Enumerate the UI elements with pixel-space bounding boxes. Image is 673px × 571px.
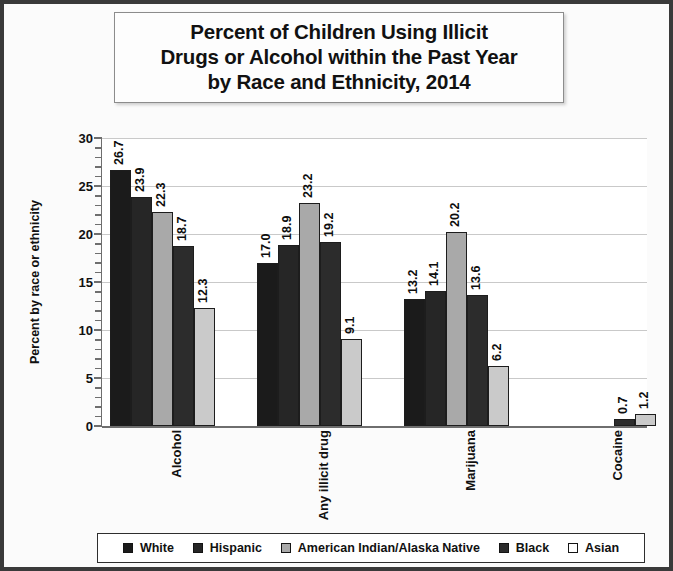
y-axis-tick-label: 0 (53, 419, 93, 434)
legend-label: Black (516, 541, 549, 555)
y-axis-title: Percent by race or ethnicity (24, 138, 46, 426)
legend-swatch (281, 543, 291, 553)
bar-value-label: 20.2 (448, 203, 462, 227)
bar[interactable] (152, 212, 173, 426)
bar[interactable] (299, 203, 320, 426)
bar-slot: 18.7 (173, 138, 194, 426)
bar[interactable] (488, 366, 509, 426)
y-axis-tick-label: 15 (53, 275, 93, 290)
bar[interactable] (614, 419, 635, 426)
bar-value-label: 23.9 (133, 167, 147, 191)
x-axis-tick-label: Alcohol (169, 430, 184, 478)
legend-item[interactable]: Hispanic (193, 541, 262, 555)
x-axis-tick-labels: AlcoholAny illicit drugMarijuanaCocaine (101, 430, 647, 530)
legend-item[interactable]: American Indian/Alaska Native (281, 541, 480, 555)
y-axis-tick-label: 25 (53, 179, 93, 194)
legend-item[interactable]: White (123, 541, 174, 555)
bar-value-label: 26.7 (112, 140, 126, 164)
bar-group: 17.018.923.219.29.1 (257, 138, 362, 426)
bar-value-label: 0.7 (616, 397, 630, 414)
bar-slot (551, 138, 572, 426)
legend-label: Hispanic (210, 541, 262, 555)
bar-slot: 6.2 (488, 138, 509, 426)
bar-value-label: 17.0 (259, 233, 273, 257)
bar-value-label: 19.2 (322, 212, 336, 236)
bar-value-label: 13.2 (406, 270, 420, 294)
bar-group: 13.214.120.213.66.2 (404, 138, 509, 426)
legend-label: Asian (585, 541, 619, 555)
bar[interactable] (110, 170, 131, 426)
bar-slot (572, 138, 593, 426)
bar-slot: 22.3 (152, 138, 173, 426)
chart-legend: WhiteHispanicAmerican Indian/Alaska Nati… (97, 533, 645, 563)
bar[interactable] (341, 339, 362, 426)
bar-slot: 18.9 (278, 138, 299, 426)
y-axis-title-text: Percent by race or ethnicity (28, 200, 42, 364)
bar[interactable] (320, 242, 341, 426)
bar-slot: 13.6 (467, 138, 488, 426)
bar-slot (593, 138, 614, 426)
bar[interactable] (635, 414, 656, 426)
bar-slot: 23.9 (131, 138, 152, 426)
bar-value-label: 12.3 (196, 279, 210, 303)
legend-item[interactable]: Black (499, 541, 549, 555)
bar[interactable] (404, 299, 425, 426)
chart-title: Percent of Children Using Illicit Drugs … (114, 12, 564, 103)
bar[interactable] (173, 246, 194, 426)
legend-item[interactable]: Asian (568, 541, 619, 555)
bar-group: 0.71.2 (551, 138, 656, 426)
bar-slot: 9.1 (341, 138, 362, 426)
y-axis-tick-label: 30 (53, 131, 93, 146)
gridline (102, 426, 647, 428)
y-axis-tick-label: 10 (53, 323, 93, 338)
bar-slot: 0.7 (614, 138, 635, 426)
x-axis-tick-label: Cocaine (610, 430, 625, 481)
chart-title-line-3: by Race and Ethnicity, 2014 (123, 69, 555, 94)
bar-slot: 19.2 (320, 138, 341, 426)
legend-swatch (193, 543, 203, 553)
bar-slot: 12.3 (194, 138, 215, 426)
bar-slot: 23.2 (299, 138, 320, 426)
legend-swatch (123, 543, 133, 553)
legend-label: White (140, 541, 174, 555)
bar-value-label: 18.9 (280, 215, 294, 239)
bar[interactable] (257, 263, 278, 426)
bar-value-label: 22.3 (154, 183, 168, 207)
bar[interactable] (467, 295, 488, 426)
bar-slot: 14.1 (425, 138, 446, 426)
bar-value-label: 14.1 (427, 261, 441, 285)
bar-slot: 13.2 (404, 138, 425, 426)
bar-value-label: 9.1 (343, 316, 357, 333)
bar[interactable] (131, 197, 152, 426)
bar-value-label: 6.2 (490, 344, 504, 361)
bar-groups: 26.723.922.318.712.317.018.923.219.29.11… (102, 138, 647, 426)
y-axis-tick-label: 20 (53, 227, 93, 242)
legend-swatch (568, 543, 578, 553)
chart-title-line-2: Drugs or Alcohol within the Past Year (123, 44, 555, 69)
y-axis-tick-labels: 051015202530 (51, 138, 93, 426)
bar[interactable] (194, 308, 215, 426)
bar-slot: 26.7 (110, 138, 131, 426)
bar-value-label: 1.2 (637, 392, 651, 409)
bar-slot: 20.2 (446, 138, 467, 426)
plot-area: 26.723.922.318.712.317.018.923.219.29.11… (101, 138, 647, 426)
bar-group: 26.723.922.318.712.3 (110, 138, 215, 426)
chart-title-line-1: Percent of Children Using Illicit (123, 19, 555, 44)
bar-value-label: 13.6 (469, 266, 483, 290)
chart-figure: Percent of Children Using Illicit Drugs … (0, 0, 673, 571)
x-axis-tick-label: Marijuana (463, 430, 478, 491)
legend-label: American Indian/Alaska Native (298, 541, 480, 555)
bar[interactable] (446, 232, 467, 426)
bar-value-label: 18.7 (175, 217, 189, 241)
bar[interactable] (278, 245, 299, 426)
bar-value-label: 23.2 (301, 174, 315, 198)
legend-swatch (499, 543, 509, 553)
bar-slot: 1.2 (635, 138, 656, 426)
x-axis-tick-label: Any illicit drug (316, 430, 331, 520)
bar[interactable] (425, 291, 446, 426)
bar-slot: 17.0 (257, 138, 278, 426)
y-axis-tick-label: 5 (53, 371, 93, 386)
